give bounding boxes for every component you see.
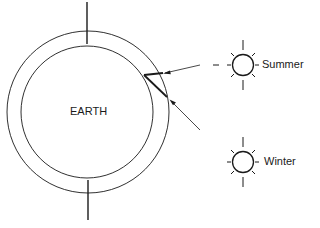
winter-arrow — [171, 101, 200, 130]
winter-label: Winter — [264, 155, 296, 167]
winter-sun-icon — [227, 137, 259, 187]
summer-sun-icon — [213, 40, 259, 90]
earth-label: EARTH — [70, 105, 107, 117]
diagram-graphics — [0, 0, 320, 228]
summer-arrowhead — [163, 71, 171, 75]
winter-arrowhead — [170, 100, 177, 106]
summer-label: Summer — [262, 58, 304, 70]
seasons-diagram: EARTH Summer Winter — [0, 0, 320, 228]
